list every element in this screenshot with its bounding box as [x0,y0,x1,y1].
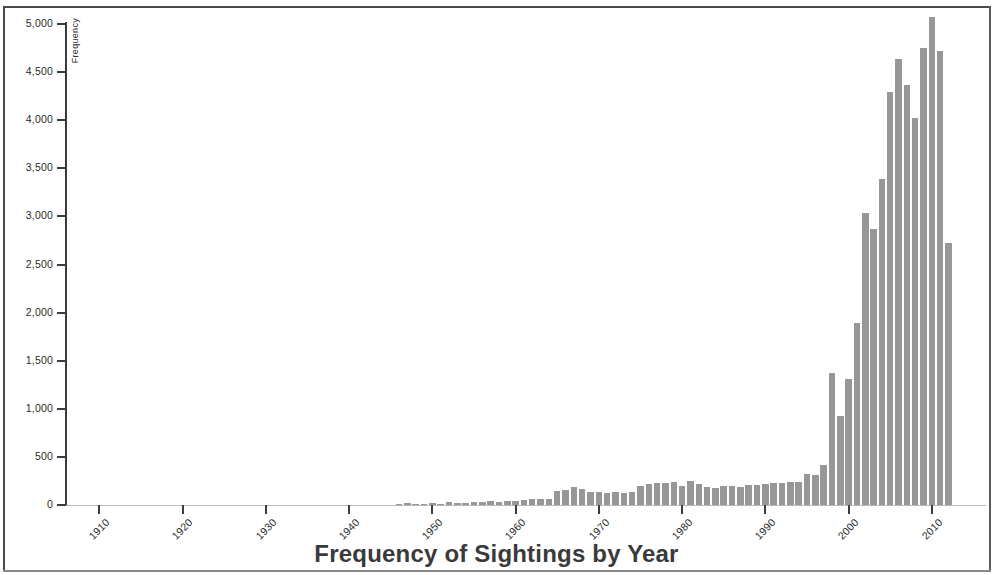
x-axis-tick-label: 1920 [169,516,195,542]
x-axis-tick [515,505,517,514]
x-axis-tick-label: 1910 [86,516,112,542]
bar [862,213,868,506]
x-axis-tick-label: 1950 [419,516,445,542]
bar [720,486,726,506]
bar [671,482,677,506]
x-axis-tick [348,505,350,514]
x-axis-tick [764,505,766,514]
bar [879,179,885,506]
bar [637,486,643,506]
bar [704,487,710,506]
x-axis-tick [598,505,600,514]
y-axis-tick-label: 4,500 [26,65,53,77]
y-axis-title-text: Frequency [70,18,80,63]
x-axis-tick [848,505,850,514]
bar [929,17,935,506]
bar [696,484,702,506]
bar [870,229,876,506]
bar [579,489,585,506]
bar-chart: 05001,0001,5002,0002,5003,0003,5004,0004… [0,0,993,575]
bar [845,379,851,506]
y-axis-tick-label: 1,500 [26,354,53,366]
y-axis-tick-label: 2,000 [26,306,53,318]
x-axis-tick [265,505,267,514]
bar [745,485,751,506]
bar [712,488,718,506]
bar [820,465,826,506]
x-axis-tick-label: 2010 [919,516,945,542]
x-axis-tick [681,505,683,514]
bar [737,487,743,506]
y-axis-tick [57,23,66,25]
bar [779,483,785,506]
bar [754,485,760,506]
y-axis-tick [57,264,66,266]
y-axis-tick [57,456,66,458]
y-axis-tick [57,119,66,121]
bar [554,491,560,506]
bar [679,486,685,506]
bar [571,487,577,506]
bar [596,492,602,506]
y-axis-tick [57,408,66,410]
bar [812,475,818,506]
y-axis-tick [57,312,66,314]
bar [604,493,610,506]
x-axis-tick [431,505,433,514]
bar [904,85,910,506]
chart-title: Frequency of Sightings by Year [0,540,993,568]
bar [612,492,618,506]
bar [854,323,860,506]
bar [621,493,627,506]
y-axis-title: Frequency [70,0,80,18]
bar [762,484,768,506]
bar [654,483,660,506]
y-axis-tick-label: 3,000 [26,209,53,221]
bar [662,483,668,506]
y-axis-tick-label: 0 [47,498,53,510]
bar [895,59,901,506]
y-axis-tick-label: 3,500 [26,161,53,173]
x-axis-tick-label: 1960 [502,516,528,542]
y-axis-tick-label: 4,000 [26,113,53,125]
bar-series [66,14,986,506]
x-axis-tick-label: 1970 [586,516,612,542]
bar [804,474,810,506]
x-axis-tick [98,505,100,514]
x-axis-tick-label: 1990 [752,516,778,542]
chart-page: 05001,0001,5002,0002,5003,0003,5004,0004… [0,0,993,575]
y-axis-tick-label: 2,500 [26,258,53,270]
bar [795,482,801,506]
bar [920,48,926,506]
bar [937,51,943,506]
y-axis-tick [57,360,66,362]
bar [587,492,593,506]
y-axis-tick-label: 1,000 [26,402,53,414]
x-axis-tick-label: 2000 [836,516,862,542]
bar [770,483,776,506]
bar [629,492,635,506]
bar [829,373,835,506]
y-axis-tick [57,167,66,169]
bar [787,482,793,506]
bar [945,243,951,506]
y-axis-tick-label: 500 [35,450,53,462]
x-axis-tick [182,505,184,514]
y-axis-tick [57,504,66,506]
bar [687,481,693,506]
bar [837,416,843,506]
bar [646,484,652,506]
plot-area [66,14,986,506]
bar [887,92,893,506]
x-axis-tick-label: 1980 [669,516,695,542]
y-axis-tick-label: 5,000 [26,17,53,29]
bar [729,486,735,506]
bar [912,118,918,506]
bar [562,490,568,506]
x-axis-tick-label: 1930 [253,516,279,542]
y-axis-tick [57,71,66,73]
x-axis-tick-label: 1940 [336,516,362,542]
x-axis-tick [931,505,933,514]
y-axis-tick [57,215,66,217]
